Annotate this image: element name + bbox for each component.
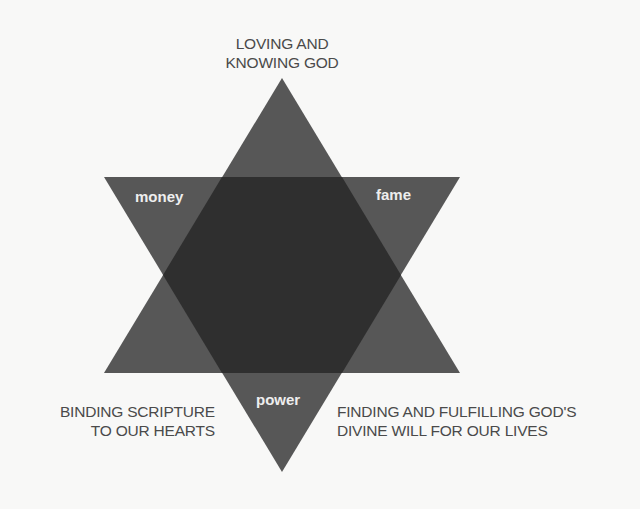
caption-line: LOVING AND: [182, 34, 382, 53]
caption-finding-gods-will: FINDING AND FULFILLING GOD'S DIVINE WILL…: [337, 402, 576, 440]
label-power: power: [256, 391, 300, 409]
caption-loving-and-knowing-god: LOVING AND KNOWING GOD: [182, 34, 382, 72]
caption-line: FINDING AND FULFILLING GOD'S: [337, 402, 576, 421]
label-fame: fame: [376, 186, 411, 204]
hexagram-diagram: LOVING AND KNOWING GOD BINDING SCRIPTURE…: [0, 0, 640, 509]
caption-binding-scripture: BINDING SCRIPTURE TO OUR HEARTS: [14, 402, 215, 440]
label-money: money: [135, 188, 183, 206]
caption-line: BINDING SCRIPTURE: [14, 402, 215, 421]
caption-line: TO OUR HEARTS: [14, 421, 215, 440]
caption-line: KNOWING GOD: [182, 53, 382, 72]
caption-line: DIVINE WILL FOR OUR LIVES: [337, 421, 576, 440]
